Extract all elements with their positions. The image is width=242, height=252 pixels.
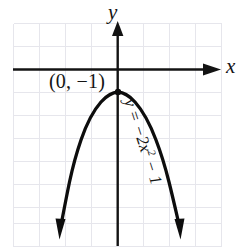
x-axis-label: x bbox=[226, 56, 235, 77]
parabola-graph-figure bbox=[0, 0, 242, 252]
y-axis-label: y bbox=[108, 2, 117, 23]
vertex-point bbox=[115, 89, 121, 95]
scan-artifact bbox=[3, 12, 8, 17]
figure-background bbox=[0, 0, 242, 252]
vertex-coordinate-label: (0, −1) bbox=[49, 71, 105, 91]
